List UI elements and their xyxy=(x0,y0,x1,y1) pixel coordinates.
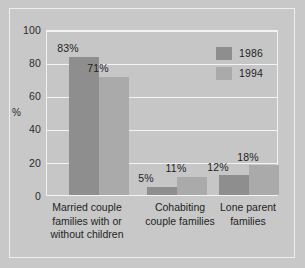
legend-item-1986[interactable]: 1986 xyxy=(216,44,278,62)
x-category-label-married-couple: Married couple families with or without … xyxy=(38,201,136,242)
y-tick-label: 80 xyxy=(29,57,41,69)
bar-1986-cohabiting-couple[interactable] xyxy=(147,187,177,195)
y-tick-label: 40 xyxy=(29,123,41,135)
data-label-1994-married-couple: 71% xyxy=(83,62,113,74)
bar-1986-lone-parent[interactable] xyxy=(219,175,249,195)
x-category-label-cohabiting-couple: Cohabiting couple families xyxy=(140,201,220,228)
legend-swatch-icon xyxy=(216,67,232,80)
legend-item-1994[interactable]: 1994 xyxy=(216,64,278,82)
bar-1994-cohabiting-couple[interactable] xyxy=(177,177,207,195)
legend-swatch-icon xyxy=(216,47,232,60)
gridline xyxy=(47,31,277,32)
bar-1986-married-couple[interactable] xyxy=(69,57,99,195)
y-tick-label: 100 xyxy=(23,24,41,36)
y-tick-label: 20 xyxy=(29,157,41,169)
gridline xyxy=(47,195,277,196)
data-label-1994-cohabiting-couple: 11% xyxy=(161,162,191,174)
y-tick-label: 60 xyxy=(29,90,41,102)
data-label-1986-lone-parent: 12% xyxy=(203,161,233,173)
x-category-label-lone-parent: Lone parent families xyxy=(213,201,283,228)
data-label-1994-lone-parent: 18% xyxy=(233,151,263,163)
bar-1994-married-couple[interactable] xyxy=(99,77,129,195)
chart-screenshot: % 100 80 60 40 20 0 83% 71% 5% 11% 12% 1… xyxy=(0,0,305,268)
data-label-1986-cohabiting-couple: 5% xyxy=(131,172,161,184)
data-label-1986-married-couple: 83% xyxy=(53,42,83,54)
bar-1994-lone-parent[interactable] xyxy=(249,165,279,195)
legend-label: 1994 xyxy=(239,67,263,79)
legend: 1986 1994 xyxy=(216,44,278,84)
y-axis-tick-labels: 100 80 60 40 20 0 xyxy=(0,0,46,196)
legend-label: 1986 xyxy=(239,47,263,59)
